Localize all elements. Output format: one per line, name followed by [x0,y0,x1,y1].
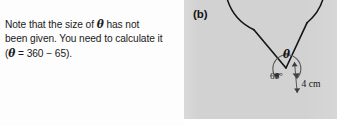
theta-symbol-inline-1: θ [97,18,104,30]
note-line-2: been given. You need to calculate it [5,32,181,46]
radius-arm-b [286,23,307,68]
dimension-arrowhead-top [292,62,298,67]
note-line-1-suffix: has not [104,19,140,30]
radius-arm-a [254,30,286,68]
note-text: Note that the size of θ has not been giv… [5,17,181,61]
note-line-3: (θ = 360 − 65). [5,46,181,61]
note-line-3-suffix: = 360 − 65). [15,48,72,59]
angle-label: 65° [270,71,283,81]
figure-panel: (b) θ 65° 4 cm [184,0,337,119]
note-line-1-prefix: Note that the size of [5,19,97,30]
note-line-1: Note that the size of θ has not [5,17,181,32]
dimension-arrowhead-bottom [294,88,300,93]
reflex-arc [225,0,325,30]
radius-length-label: 4 cm [302,78,321,89]
figure-note-page: Note that the size of θ has not been giv… [0,0,337,125]
theta-label: θ [283,48,290,60]
part-label: (b) [193,8,208,20]
note-panel: Note that the size of θ has not been giv… [0,0,184,125]
